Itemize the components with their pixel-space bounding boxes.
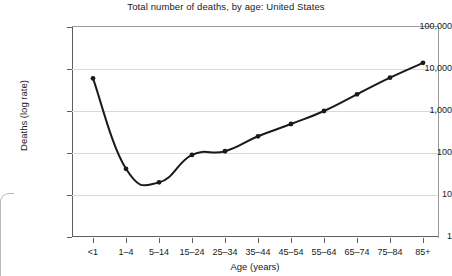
data-point-marker — [355, 92, 360, 97]
y-axis-title: Deaths (log rate) — [18, 51, 29, 181]
data-point-marker — [124, 166, 129, 171]
series-line — [93, 63, 423, 186]
data-point-marker — [322, 109, 327, 114]
data-point-marker — [256, 134, 261, 139]
data-point-marker — [388, 75, 393, 80]
chart-figure: Total number of deaths, by age: United S… — [0, 0, 452, 276]
data-point-marker — [421, 60, 426, 65]
data-point-marker — [91, 76, 96, 81]
data-series-layer — [0, 0, 452, 276]
data-point-marker — [289, 122, 294, 127]
data-point-marker — [157, 180, 162, 185]
data-point-marker — [190, 153, 195, 158]
data-point-marker — [223, 149, 228, 154]
x-axis-title: Age (years) — [72, 261, 438, 272]
